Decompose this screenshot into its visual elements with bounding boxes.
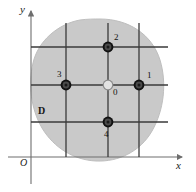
y-axis-label: y	[20, 4, 25, 15]
node-marker-1[interactable]	[134, 80, 145, 91]
region-label-d: D	[38, 106, 45, 116]
x-axis-label: x	[176, 160, 181, 171]
node-label-1: 1	[147, 71, 152, 80]
node-label-4: 4	[104, 130, 109, 139]
region-d-shape	[31, 19, 164, 161]
node-label-2: 2	[114, 33, 119, 42]
node-label-3: 3	[57, 70, 62, 79]
figure-vector-layer	[0, 0, 196, 192]
node-marker-3[interactable]	[61, 80, 72, 91]
figure-canvas: y x O D 0 1 2 3 4	[0, 0, 196, 192]
node-marker-4[interactable]	[103, 117, 114, 128]
origin-label: O	[20, 158, 27, 168]
node-marker-2[interactable]	[103, 42, 114, 53]
node-marker-0[interactable]	[103, 80, 114, 91]
node-label-0: 0	[113, 88, 118, 97]
